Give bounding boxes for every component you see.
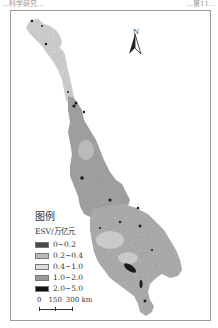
legend-label: 0.2~0.4: [53, 251, 83, 260]
legend-swatch: [35, 275, 49, 281]
legend-item: 2.0~5.0: [35, 283, 83, 294]
legend-subtitle: ESV/万亿元: [35, 225, 83, 236]
scale-label-0: 0: [37, 296, 41, 304]
legend-label: 0.4~1.0: [53, 262, 83, 271]
north-label: N: [133, 28, 139, 36]
legend-item: 0.4~1.0: [35, 261, 83, 272]
legend-label: 0~0.2: [53, 240, 76, 249]
legend-label: 2.0~5.0: [53, 284, 83, 293]
legend-item: 0~0.2: [35, 239, 83, 250]
legend-item: 0.2~0.4: [35, 250, 83, 261]
scale-bar-graphic: [39, 307, 73, 311]
region-stem: [68, 96, 130, 218]
legend-swatch: [35, 253, 49, 259]
legend-label: 1.0~2.0: [53, 273, 83, 282]
legend-title: 图例: [35, 208, 83, 223]
legend-swatch: [35, 286, 49, 292]
esv-region-map: [0, 0, 218, 328]
legend-swatch: [35, 242, 49, 248]
region-upper: [26, 19, 74, 106]
map-legend: 图例 ESV/万亿元 0~0.2 0.2~0.4 0.4~1.0 1.0~2.0…: [35, 208, 83, 294]
scale-bar: 0 150 300 km: [37, 296, 92, 311]
scale-label-300: 300 km: [66, 296, 92, 304]
legend-item: 1.0~2.0: [35, 272, 83, 283]
scale-label-150: 150: [48, 296, 61, 304]
legend-swatch: [35, 264, 49, 270]
